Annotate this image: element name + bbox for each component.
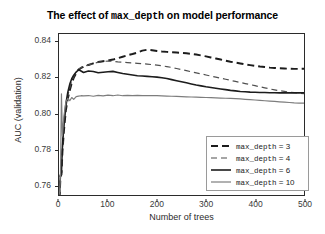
legend-label-depth-10: max_depth = 10 (236, 178, 295, 187)
y-tick-mark (55, 150, 58, 151)
legend-label-depth-6: max_depth = 6 (236, 166, 290, 175)
chart-figure: The effect of max_depth on model perform… (0, 0, 325, 234)
chart-legend[interactable]: max_depth = 3max_depth = 4max_depth = 6m… (206, 136, 309, 191)
y-axis-title: AUC (validation) (13, 45, 23, 175)
legend-line-swatch-depth-4 (211, 153, 231, 163)
x-axis-title: Number of trees (58, 212, 305, 222)
x-tick-mark (305, 199, 306, 202)
legend-line-swatch-depth-10 (211, 177, 231, 187)
y-tick-mark (55, 114, 58, 115)
x-tick-mark (255, 199, 256, 202)
legend-line-swatch-depth-6 (211, 165, 231, 175)
x-tick-mark (156, 199, 157, 202)
y-tick-mark (55, 186, 58, 187)
legend-line-swatch-depth-3 (211, 141, 231, 151)
legend-item-depth-6[interactable]: max_depth = 6 (211, 164, 304, 176)
y-tick-mark (55, 41, 58, 42)
legend-item-depth-4[interactable]: max_depth = 4 (211, 152, 304, 164)
legend-item-depth-3[interactable]: max_depth = 3 (211, 140, 304, 152)
x-tick-mark (107, 199, 108, 202)
x-tick-mark (206, 199, 207, 202)
x-tick-mark (58, 199, 59, 202)
legend-label-depth-3: max_depth = 3 (236, 142, 290, 151)
legend-item-depth-10[interactable]: max_depth = 10 (211, 176, 304, 188)
legend-label-depth-4: max_depth = 4 (236, 154, 290, 163)
y-tick-mark (55, 77, 58, 78)
